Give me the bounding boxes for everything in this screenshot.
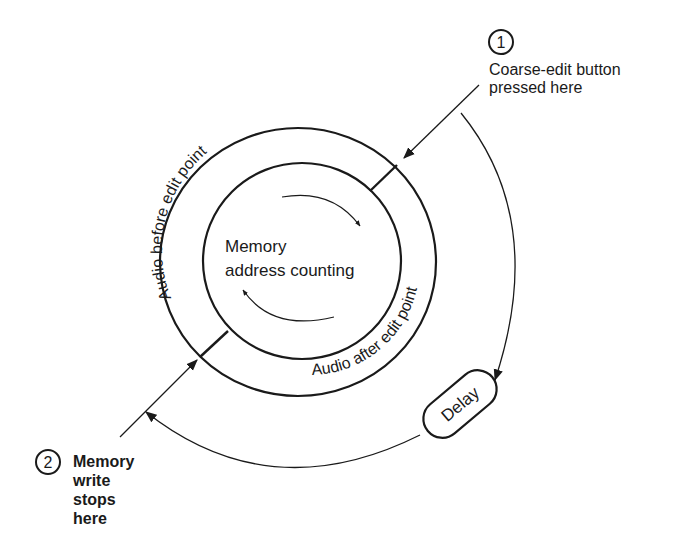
counting-arrow-bottom-icon bbox=[243, 290, 334, 321]
delay-box: Delay bbox=[416, 362, 505, 445]
step2-line3: stops bbox=[73, 491, 116, 508]
edit-point-line-1-thick bbox=[370, 165, 397, 191]
step2-number: 2 bbox=[44, 454, 53, 471]
step1-line2: pressed here bbox=[489, 79, 582, 96]
edit-point-line-2-thick bbox=[200, 331, 228, 357]
ring-label-after: Audio after edit point bbox=[311, 284, 420, 378]
arc-to-delay bbox=[461, 113, 515, 380]
center-label-line1: Memory bbox=[225, 237, 287, 256]
step2-line4: here bbox=[73, 510, 107, 527]
memory-edit-diagram: Audio before edit point Audio after edit… bbox=[0, 0, 683, 551]
step2-line1: Memory bbox=[73, 453, 134, 470]
step1-number: 1 bbox=[497, 34, 506, 51]
center-label-line2: address counting bbox=[225, 261, 354, 280]
edit-point-line-2 bbox=[120, 360, 197, 437]
arc-from-delay bbox=[146, 412, 420, 468]
counting-arrow-top-icon bbox=[282, 195, 360, 226]
step2-line2: write bbox=[72, 472, 110, 489]
step1-line1: Coarse-edit button bbox=[489, 61, 621, 78]
